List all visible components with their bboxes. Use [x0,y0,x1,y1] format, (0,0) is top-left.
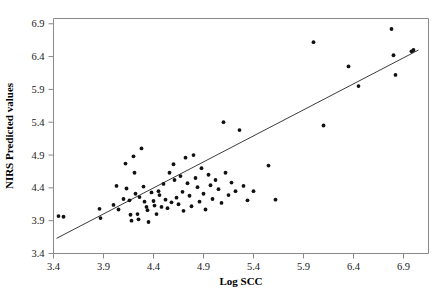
data-point [130,219,134,223]
data-point [186,181,190,185]
data-points [57,27,416,224]
data-point [99,216,103,220]
regression-line [57,50,419,238]
data-point [138,195,142,199]
data-point [392,53,396,57]
data-point [162,182,166,186]
data-point [168,171,172,175]
data-point [182,209,186,213]
y-tick-label: 5.9 [31,84,44,95]
data-point [202,192,206,196]
data-point [124,162,128,166]
x-axis-ticks: 3.43.94.44.95.45.96.46.9 [47,254,410,272]
data-point [194,176,198,180]
data-point [312,40,316,44]
x-tick-label: 4.9 [197,261,210,272]
plot-frame [54,19,429,254]
data-point [158,193,162,197]
regression-line-segment [57,50,419,238]
data-point [322,124,326,128]
data-point [179,174,183,178]
data-point [190,204,194,208]
data-point [62,215,66,219]
data-point [220,201,224,205]
plot-canvas: 3.43.94.44.95.45.96.46.9 3.43.94.44.95.4… [0,0,442,293]
data-point [146,208,150,212]
data-point [207,173,211,177]
data-point [274,198,278,202]
data-point [128,198,132,202]
x-tick-label: 4.4 [147,261,161,272]
data-point [200,166,204,170]
data-point [390,27,394,31]
data-point [152,199,156,203]
data-point [184,156,188,160]
data-point [234,189,238,193]
data-point [112,203,116,207]
data-point [252,189,256,193]
x-axis-title: Log SCC [219,275,262,287]
data-point [238,128,242,132]
data-point [173,178,177,182]
x-tick-label: 3.4 [47,261,61,272]
data-point [230,181,234,185]
data-point [357,84,361,88]
data-point [267,164,271,168]
data-point [181,190,185,194]
data-point [160,205,164,209]
x-tick-label: 6.4 [347,261,361,272]
data-point [142,185,146,189]
data-point [164,198,168,202]
data-point [394,73,398,77]
x-tick-label: 3.9 [97,261,110,272]
x-tick-label: 6.9 [397,261,410,272]
x-tick-label: 5.4 [247,261,261,272]
data-point [211,197,215,201]
data-point [57,214,61,218]
data-point [132,154,136,158]
y-tick-label: 6.4 [31,51,45,62]
data-point [198,200,202,204]
data-point [147,220,151,224]
data-point [188,194,192,198]
data-point [150,191,154,195]
data-point [177,202,181,206]
y-tick-label: 3.4 [31,248,45,259]
data-point [347,65,351,69]
data-point [217,187,221,191]
data-point [227,193,231,197]
data-point [172,162,176,166]
data-point [115,184,119,188]
data-point [204,208,208,212]
data-point [117,208,121,212]
data-point [137,217,141,221]
data-point [246,198,250,202]
data-point [98,207,102,211]
data-point [153,204,157,208]
data-point [145,205,149,209]
data-point [143,200,147,204]
data-point [175,196,179,200]
y-tick-label: 6.9 [31,18,44,29]
data-point [157,189,161,193]
data-point [192,153,196,157]
data-point [140,147,144,151]
y-tick-label: 4.4 [31,182,45,193]
x-tick-label: 5.9 [297,261,310,272]
data-point [412,48,416,52]
data-point [133,171,137,175]
data-point [129,213,133,217]
data-point [136,212,140,216]
y-axis-ticks: 3.43.94.44.95.45.96.46.9 [31,18,53,259]
data-point [224,171,228,175]
data-point [196,185,200,189]
y-tick-label: 3.9 [31,215,44,226]
data-point [242,184,246,188]
data-point [155,212,159,216]
data-point [222,120,226,124]
y-tick-label: 4.9 [31,150,44,161]
data-point [170,200,174,204]
data-point [209,183,213,187]
data-point [134,192,138,196]
data-point [214,178,218,182]
